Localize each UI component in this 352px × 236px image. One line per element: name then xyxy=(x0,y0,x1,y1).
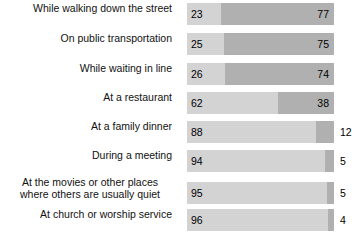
category-label: At the movies or other placeswhere other… xyxy=(0,177,180,200)
bar-track: 8812 xyxy=(187,121,334,143)
bar-track: 2674 xyxy=(187,63,334,85)
bar-value-left: 94 xyxy=(191,150,203,172)
bar-track: 2575 xyxy=(187,33,334,55)
bar-segment-right: 75 xyxy=(224,33,334,55)
chart-row: At the movies or other placeswhere other… xyxy=(0,182,342,204)
bar-segment-right: 38 xyxy=(278,92,334,114)
bar-value-left: 95 xyxy=(191,182,203,204)
bar-value-left: 88 xyxy=(191,121,203,143)
bar-value-left: 62 xyxy=(191,92,203,114)
bar-segment-left: 94 xyxy=(187,150,325,172)
bar-track: 6238 xyxy=(187,92,334,114)
chart-row: At a restaurant6238 xyxy=(0,92,342,114)
bar-segment-left: 96 xyxy=(187,209,328,231)
bar-segment-left: 62 xyxy=(187,92,278,114)
bar-value-left: 26 xyxy=(191,63,203,85)
category-label: While walking down the street xyxy=(0,3,172,15)
bar-value-right: 77 xyxy=(317,3,329,25)
bar-value-right: 38 xyxy=(317,92,329,114)
bar-track: 955 xyxy=(187,182,334,204)
bar-value-right: 5 xyxy=(340,182,346,204)
chart-row: While walking down the street2377 xyxy=(0,3,342,25)
category-label: At a family dinner xyxy=(0,121,172,133)
chart-row: At a family dinner8812 xyxy=(0,121,342,143)
bar-value-right: 4 xyxy=(340,209,346,231)
bar-track: 945 xyxy=(187,150,334,172)
bar-segment-left: 95 xyxy=(187,182,327,204)
bar-segment-right: 77 xyxy=(221,3,334,25)
bar-value-left: 96 xyxy=(191,209,203,231)
chart-row: During a meeting945 xyxy=(0,150,342,172)
bar-segment-left: 23 xyxy=(187,3,221,25)
bar-segment-right: 4 xyxy=(328,209,334,231)
bar-segment-left: 26 xyxy=(187,63,225,85)
bar-segment-right: 12 xyxy=(316,121,334,143)
bar-value-left: 25 xyxy=(191,33,203,55)
category-label: While waiting in line xyxy=(0,63,172,75)
bar-value-right: 12 xyxy=(340,121,352,143)
bar-value-left: 23 xyxy=(191,3,203,25)
category-label: On public transportation xyxy=(0,33,172,45)
bar-value-right: 5 xyxy=(340,150,346,172)
category-label: During a meeting xyxy=(0,150,172,162)
chart-row: While waiting in line2674 xyxy=(0,63,342,85)
bar-segment-left: 88 xyxy=(187,121,316,143)
chart-row: On public transportation2575 xyxy=(0,33,342,55)
bar-track: 2377 xyxy=(187,3,334,25)
bar-segment-right: 5 xyxy=(325,150,334,172)
category-label: At a restaurant xyxy=(0,92,172,104)
bar-track: 964 xyxy=(187,209,334,231)
bar-segment-right: 74 xyxy=(225,63,334,85)
bar-segment-left: 25 xyxy=(187,33,224,55)
bar-value-right: 75 xyxy=(317,33,329,55)
bar-segment-right: 5 xyxy=(327,182,334,204)
chart-row: At church or worship service964 xyxy=(0,209,342,231)
category-label: At church or worship service xyxy=(0,209,172,221)
bar-value-right: 74 xyxy=(317,63,329,85)
